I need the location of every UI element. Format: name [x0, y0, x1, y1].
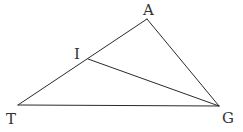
label-G: G	[222, 109, 234, 127]
triangle-diagram: A I T G	[0, 0, 243, 132]
label-T: T	[6, 110, 16, 128]
label-I: I	[74, 45, 80, 63]
label-A: A	[142, 1, 154, 19]
segment-TG	[18, 105, 219, 106]
segment-TA	[18, 19, 147, 105]
